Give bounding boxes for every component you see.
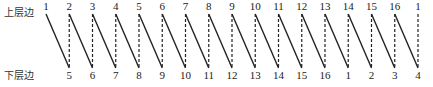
bottom-number: 15 — [296, 69, 307, 81]
top-number: 5 — [136, 0, 142, 12]
bottom-number: 14 — [273, 69, 284, 81]
bottom-number: 4 — [415, 69, 421, 81]
top-number: 11 — [273, 0, 284, 12]
top-number: 1 — [43, 0, 49, 12]
bottom-number: 5 — [67, 69, 73, 81]
bottom-number: 12 — [227, 69, 238, 81]
top-number: 2 — [67, 0, 73, 12]
solid-connection — [116, 14, 139, 68]
bottom-number: 9 — [160, 69, 166, 81]
top-number: 9 — [229, 0, 235, 12]
solid-connection — [348, 14, 371, 68]
bottom-number: 1 — [346, 69, 352, 81]
winding-diagram: 上层边 下层边 123456789101112131415161 5678910… — [0, 0, 433, 87]
solid-connection — [69, 14, 92, 68]
solid-connection — [395, 14, 418, 68]
bottom-number: 7 — [113, 69, 119, 81]
top-number: 12 — [296, 0, 307, 12]
bottom-number: 13 — [250, 69, 261, 81]
solid-connection — [372, 14, 395, 68]
bottom-number: 16 — [320, 69, 331, 81]
top-number: 1 — [415, 0, 421, 12]
bottom-number: 8 — [136, 69, 142, 81]
top-number: 8 — [206, 0, 212, 12]
bottom-number: 6 — [90, 69, 96, 81]
solid-connection — [46, 14, 69, 68]
bottom-number: 10 — [180, 69, 191, 81]
bottom-number: 3 — [392, 69, 398, 81]
top-number: 13 — [320, 0, 331, 12]
top-number: 4 — [113, 0, 119, 12]
solid-connection — [325, 14, 348, 68]
solid-connection — [255, 14, 278, 68]
solid-connection — [302, 14, 325, 68]
top-number: 7 — [183, 0, 189, 12]
solid-connection — [279, 14, 302, 68]
solid-connection — [186, 14, 209, 68]
top-number: 14 — [343, 0, 354, 12]
solid-connection — [162, 14, 185, 68]
top-number: 10 — [250, 0, 261, 12]
top-number: 15 — [366, 0, 377, 12]
bottom-number: 11 — [203, 69, 214, 81]
solid-connection — [232, 14, 255, 68]
top-number: 6 — [160, 0, 166, 12]
bottom-number: 2 — [369, 69, 375, 81]
top-number: 16 — [389, 0, 400, 12]
top-number: 3 — [90, 0, 96, 12]
solid-connection — [209, 14, 232, 68]
solid-connection — [93, 14, 116, 68]
solid-connection — [139, 14, 162, 68]
